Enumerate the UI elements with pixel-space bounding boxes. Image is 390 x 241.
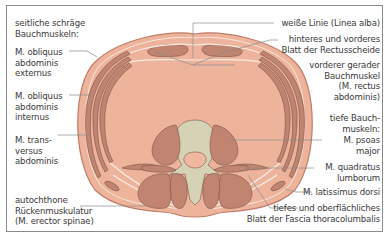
label-obliquus-externus: M. obliquusabdominisexternus — [15, 47, 63, 79]
label-obliquus-internus: M. obliquusabdominisinternus — [15, 91, 63, 123]
label-rectus-abdominis: vorderer geraderBauchmuskel(M. rectusabd… — [309, 60, 380, 102]
label-quadratus-lumborum: M. quadratuslumborum — [325, 162, 380, 183]
label-fascia-thoracolumbalis: tiefes und oberflächlichesBlatt der Fasc… — [247, 203, 380, 224]
label-linea-alba: weiße Linie (Linea alba) — [281, 18, 380, 29]
label-latissimus-dorsi: M. latissimus dorsi — [303, 187, 380, 198]
label-erector-spinae: autochthoneRückenmuskulatur(M. erector s… — [15, 195, 94, 227]
label-lateral-oblique-heading: seitliche schrägeBauchmuskeln: — [15, 18, 85, 39]
spinal-canal — [184, 152, 206, 168]
label-transversus-abdominis: M. trans-versusabdominis — [15, 135, 58, 167]
label-psoas-major: M. psoasmajor — [343, 135, 380, 156]
label-deep-abdominal-heading: tiefe Bauch-muskeln: — [330, 113, 380, 134]
label-rectus-sheath: hinteres und vorderesBlatt der Rectussch… — [281, 34, 380, 55]
